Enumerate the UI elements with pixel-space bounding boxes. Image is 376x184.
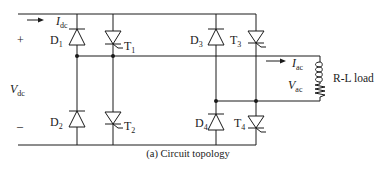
diode-d2 (69, 111, 85, 127)
node-right-t (254, 99, 258, 103)
d3-sub: 3 (199, 40, 203, 49)
d1-sub: 1 (59, 40, 63, 49)
d3-label: D3 (190, 34, 203, 49)
iac-sub: ac (296, 63, 303, 72)
d4-label: D4 (195, 117, 208, 132)
t3-label: T3 (230, 34, 241, 49)
node-left-d (75, 54, 79, 58)
diode-d3 (208, 29, 224, 45)
t2-sub: 2 (131, 126, 135, 135)
t4-label: T4 (234, 117, 245, 132)
thyristor-t4 (248, 116, 266, 132)
diode-d4 (208, 114, 224, 130)
t4-sub: 4 (241, 123, 245, 132)
d2-sub: 2 (59, 122, 63, 131)
vac-label: Vac (288, 79, 302, 94)
vac-sub: ac (295, 85, 302, 94)
negative-terminal-label: – (17, 120, 23, 132)
inductor-icon (316, 62, 323, 82)
node-right-d (214, 99, 218, 103)
idc-sub: dc (60, 21, 68, 30)
d4-sub: 4 (204, 123, 208, 132)
d1-label: D1 (50, 34, 63, 49)
thyristor-t3 (248, 31, 266, 47)
idc-label: Idc (56, 15, 68, 30)
vdc-label: Vdc (10, 83, 25, 98)
t1-sub: 1 (131, 46, 135, 55)
diode-d1 (69, 29, 85, 45)
node-left-t (111, 54, 115, 58)
d2-letter: D (50, 115, 59, 129)
iac-arrow-icon (266, 59, 286, 64)
d1-letter: D (50, 33, 59, 47)
figure-caption: (a) Circuit topology (0, 148, 376, 159)
idc-arrow-icon (27, 18, 44, 23)
rl-load-label: R-L load (333, 73, 374, 85)
iac-label: Iac (292, 57, 303, 72)
vdc-sub: dc (17, 89, 25, 98)
thyristor-t1 (105, 31, 123, 48)
d3-letter: D (190, 33, 199, 47)
t2-label: T2 (124, 120, 135, 135)
t1-label: T1 (124, 40, 135, 55)
resistor-icon (315, 82, 325, 97)
d4-letter: D (195, 116, 204, 130)
thyristor-t2 (105, 112, 123, 128)
d2-label: D2 (50, 116, 63, 131)
t3-sub: 3 (237, 40, 241, 49)
positive-terminal-label: + (17, 34, 24, 46)
junction-nodes (75, 54, 258, 103)
